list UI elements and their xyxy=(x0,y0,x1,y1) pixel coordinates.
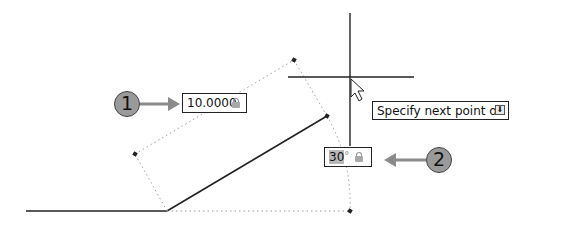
grip-point xyxy=(291,57,296,62)
dropdown-arrow-icon[interactable]: ⬇ xyxy=(495,105,505,115)
lock-icon[interactable] xyxy=(232,98,240,108)
dynamic-input-length[interactable]: 10.0000 xyxy=(182,93,247,113)
prompt-text: Specify next point or xyxy=(373,104,502,118)
angle-value: 30 xyxy=(329,150,344,164)
dynamic-input-angle[interactable]: 30° xyxy=(324,147,372,167)
grip-point xyxy=(132,151,137,156)
rubberband-line xyxy=(167,116,327,211)
dim-extension-line-2 xyxy=(294,60,327,116)
command-prompt-tooltip: Specify next point or ⬇ xyxy=(372,101,509,120)
callout-number-1: 1 xyxy=(114,91,140,117)
callout-arrow-2 xyxy=(384,153,426,167)
callout-number-2: 2 xyxy=(426,147,452,173)
arrow-pointer-icon xyxy=(351,79,364,101)
grip-point xyxy=(347,208,352,213)
degree-unit: ° xyxy=(344,150,349,161)
length-value: 10.0000 xyxy=(183,96,237,110)
callout-arrow-1 xyxy=(140,97,180,111)
dim-extension-line xyxy=(135,154,167,211)
lock-icon[interactable] xyxy=(355,152,363,162)
